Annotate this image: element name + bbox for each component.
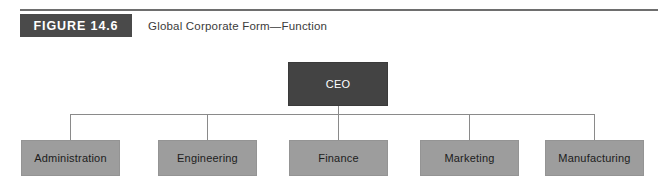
org-node-label: Finance	[318, 152, 359, 164]
org-node-ceo[interactable]: CEO	[288, 62, 388, 106]
org-chart: CEO Administration Engineering Finance M…	[0, 0, 665, 189]
org-node-engineering[interactable]: Engineering	[158, 140, 257, 176]
figure-container: FIGURE 14.6 Global Corporate Form—Functi…	[0, 0, 665, 189]
org-node-label: Manufacturing	[558, 152, 630, 164]
org-node-manufacturing[interactable]: Manufacturing	[545, 140, 644, 176]
org-node-marketing[interactable]: Marketing	[420, 140, 519, 176]
org-node-label: Administration	[34, 152, 107, 164]
org-node-finance[interactable]: Finance	[289, 140, 388, 176]
org-node-label: Marketing	[444, 152, 494, 164]
org-node-label: CEO	[326, 78, 350, 90]
org-node-label: Engineering	[177, 152, 238, 164]
org-node-administration[interactable]: Administration	[21, 140, 120, 176]
